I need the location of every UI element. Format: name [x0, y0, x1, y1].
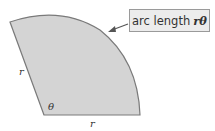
callout-symbol: rθ: [193, 14, 207, 28]
radius-label-bottom: r: [90, 118, 95, 129]
radius-label-left: r: [19, 66, 24, 77]
arc-length-callout: arc length rθ: [129, 9, 210, 32]
callout-text: arc length: [132, 14, 190, 28]
angle-label: θ: [48, 101, 54, 112]
sector-shape: [10, 15, 140, 115]
arrow-head-icon: [108, 26, 116, 32]
